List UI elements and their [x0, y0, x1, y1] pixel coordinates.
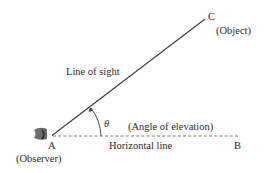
- angle-of-elevation-label: (Angle of elevation): [128, 121, 214, 133]
- observer-caption: (Observer): [16, 153, 62, 165]
- theta-symbol: θ: [104, 118, 109, 129]
- line-of-sight-label: Line of sight: [66, 66, 120, 77]
- eye-icon: [34, 128, 47, 140]
- line-of-sight: [52, 19, 205, 136]
- point-b-label: B: [234, 140, 241, 151]
- horizontal-line-label: Horizontal line: [109, 140, 173, 151]
- point-a-label: A: [48, 140, 56, 151]
- point-c-label: C: [208, 11, 215, 22]
- angle-arc: [91, 108, 101, 136]
- angle-of-elevation-diagram: C (Object) Line of sight θ (Angle of ele…: [0, 0, 266, 173]
- object-caption: (Object): [216, 25, 251, 37]
